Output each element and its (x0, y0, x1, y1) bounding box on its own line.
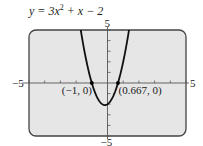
y-max-label: 5 (105, 17, 111, 29)
intercept-label: (−1, 0) (62, 84, 92, 97)
x-min-label: −5 (12, 77, 24, 89)
x-max-label: 5 (190, 77, 196, 89)
graph-screen: (−1, 0)(0.667, 0)−555−5 (0, 0, 203, 146)
intercept-label: (0.667, 0) (118, 84, 161, 97)
y-min-label: −5 (101, 136, 113, 146)
